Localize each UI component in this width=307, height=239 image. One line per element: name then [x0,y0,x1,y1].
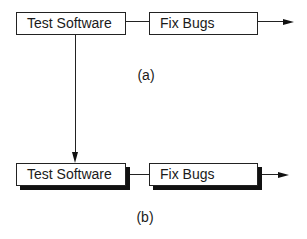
connector-test-to-fix-a [126,21,149,22]
arrowhead-down-icon [72,152,78,163]
node-label: Fix Bugs [160,166,214,182]
caption-b: (b) [125,209,165,225]
node-label: Test Software [27,15,112,31]
node-test-software-b: Test Software [16,163,126,186]
caption-a: (a) [126,67,166,83]
node-fix-bugs-a: Fix Bugs [149,12,258,35]
output-line-a [258,21,284,22]
transition-line-a-to-b [75,35,76,153]
output-line-b [262,174,279,175]
connector-test-to-fix-b [130,174,149,175]
node-test-software-a: Test Software [16,12,126,35]
node-label: Fix Bugs [160,15,214,31]
node-fix-bugs-b: Fix Bugs [149,163,258,186]
node-label: Test Software [27,166,112,182]
arrowhead-right-icon [283,19,294,25]
arrowhead-right-icon [278,172,289,178]
